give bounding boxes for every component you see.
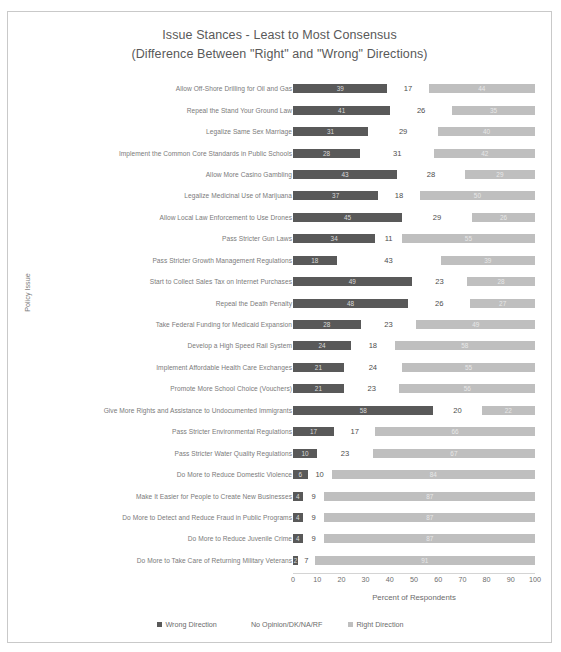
plot-area: Allow Off-Shore Drilling for Oil and Gas…: [8, 78, 553, 573]
bar-segment-wrong: 37: [293, 191, 378, 200]
bar-segment-no-opinion: 7: [298, 556, 315, 565]
stacked-bar: 412635: [293, 99, 535, 120]
legend-label: No Opinion/DK/NA/RF: [251, 620, 323, 629]
stacked-bar: 312940: [293, 121, 535, 142]
bar-segment-wrong: 21: [293, 363, 344, 372]
bar-segment-no-opinion: 29: [402, 213, 472, 222]
bar-segment-right: 50: [420, 191, 535, 200]
bar-segment-right: 22: [482, 406, 535, 415]
category-label: Allow More Casino Gambling: [206, 164, 292, 185]
chart-row: Implement Affordable Health Care Exchang…: [8, 357, 553, 378]
x-axis-tick-label: 80: [483, 575, 491, 584]
chart-row: Do More to Detect and Reduce Fraud in Pu…: [8, 507, 553, 528]
bar-segment-wrong: 24: [293, 341, 351, 350]
bar-segment-no-opinion: 18: [378, 191, 419, 200]
category-label: Do More to Take Care of Returning Milita…: [137, 550, 292, 571]
stacked-bar: 452926: [293, 207, 535, 228]
bar-segment-right: 49: [416, 320, 535, 329]
stacked-bar: 282349: [293, 314, 535, 335]
bar-segment-wrong: 4: [293, 513, 303, 522]
legend-item[interactable]: Wrong Direction: [157, 620, 216, 629]
category-label: Pass Stricter Water Quality Regulations: [174, 442, 292, 463]
legend-swatch-right: [348, 622, 353, 627]
bar-segment-wrong: 39: [293, 84, 387, 93]
chart-row: Allow Local Law Enforcement to Use Drone…: [8, 207, 553, 228]
bar-segment-right: 84: [332, 470, 535, 479]
bar-segment-wrong: 28: [293, 320, 361, 329]
category-label: Pass Stricter Environmental Regulations: [172, 421, 292, 442]
bar-segment-right: 91: [315, 556, 535, 565]
bar-segment-right: 42: [434, 149, 535, 158]
x-axis-line: [293, 573, 535, 574]
bar-segment-right: 58: [395, 341, 535, 350]
chart-row: Legalize Medicinal Use of Marijuana37185…: [8, 185, 553, 206]
chart-title-line1: Issue Stances - Least to Most Consensus: [162, 28, 397, 42]
chart-row: Pass Stricter Water Quality Regulations1…: [8, 442, 553, 463]
legend-swatch-wrong: [157, 622, 162, 627]
chart-title-line2: (Difference Between "Right" and "Wrong" …: [8, 45, 551, 64]
bar-segment-wrong: 48: [293, 299, 408, 308]
x-axis-tick-label: 40: [386, 575, 394, 584]
x-axis-tick-label: 30: [362, 575, 370, 584]
x-axis-tick-label: 20: [337, 575, 345, 584]
stacked-bar: 371850: [293, 185, 535, 206]
category-label: Repeal the Death Penalty: [216, 292, 292, 313]
bar-segment-no-opinion: 23: [317, 449, 373, 458]
bar-segment-no-opinion: 9: [303, 492, 325, 501]
legend-item[interactable]: Right Direction: [348, 620, 403, 629]
bar-segment-no-opinion: 31: [360, 149, 434, 158]
stacked-bar: 184339: [293, 250, 535, 271]
bar-segment-right: 39: [441, 256, 535, 265]
bar-segment-wrong: 43: [293, 170, 397, 179]
x-axis-tick-label: 100: [529, 575, 541, 584]
stacked-bar: 391744: [293, 78, 535, 99]
bar-segment-wrong: 49: [293, 277, 412, 286]
bar-segment-right: 87: [324, 513, 535, 522]
category-label: Do More to Detect and Reduce Fraud in Pu…: [122, 507, 292, 528]
stacked-bar: 212455: [293, 357, 535, 378]
x-axis-tick-label: 70: [458, 575, 466, 584]
category-label: Repeal the Stand Your Ground Law: [187, 99, 292, 120]
bar-segment-right: 66: [375, 427, 535, 436]
category-label: Pass Stricter Gun Laws: [222, 228, 292, 249]
chart-row: Legalize Same Sex Marriage312940: [8, 121, 553, 142]
chart-row: Give More Rights and Assistance to Undoc…: [8, 400, 553, 421]
bar-segment-wrong: 28: [293, 149, 360, 158]
bar-segment-wrong: 45: [293, 213, 402, 222]
category-label: Do More to Reduce Domestic Violence: [177, 464, 292, 485]
category-label: Develop a High Speed Rail System: [187, 335, 292, 356]
bar-segment-wrong: 21: [293, 384, 344, 393]
stacked-bar: 241858: [293, 335, 535, 356]
legend-label: Right Direction: [356, 620, 403, 629]
chart-row: Repeal the Stand Your Ground Law412635: [8, 99, 553, 120]
chart-row: Do More to Take Care of Returning Milita…: [8, 550, 553, 571]
stacked-bar: 2791: [293, 550, 535, 571]
bar-segment-no-opinion: 20: [433, 406, 481, 415]
stacked-bar: 4987: [293, 528, 535, 549]
stacked-bar: 102367: [293, 442, 535, 463]
bar-segment-no-opinion: 23: [412, 277, 468, 286]
bar-segment-right: 29: [465, 170, 535, 179]
x-axis-tick-label: 90: [507, 575, 515, 584]
bar-segment-no-opinion: 17: [334, 427, 375, 436]
stacked-bar: 4987: [293, 485, 535, 506]
bar-segment-wrong: 58: [293, 406, 433, 415]
bar-segment-no-opinion: 26: [408, 299, 470, 308]
category-label: Implement Affordable Health Care Exchang…: [156, 357, 292, 378]
bar-segment-no-opinion: 18: [351, 341, 395, 350]
chart-row: Pass Stricter Gun Laws341155: [8, 228, 553, 249]
legend-item[interactable]: No Opinion/DK/NA/RF: [243, 620, 323, 629]
bar-segment-right: 55: [402, 234, 535, 243]
x-axis-tick-label: 10: [313, 575, 321, 584]
bar-segment-right: 44: [429, 84, 535, 93]
bar-segment-no-opinion: 24: [344, 363, 402, 372]
chart-row: Make It Easier for People to Create New …: [8, 485, 553, 506]
bar-segment-no-opinion: 9: [303, 534, 325, 543]
chart-row: Allow More Casino Gambling432829: [8, 164, 553, 185]
bar-segment-right: 26: [472, 213, 535, 222]
stacked-bar: 582022: [293, 400, 535, 421]
x-axis-tick-label: 0: [291, 575, 295, 584]
bar-segment-wrong: 18: [293, 256, 337, 265]
stacked-bar: 341155: [293, 228, 535, 249]
category-label: Give More Rights and Assistance to Undoc…: [104, 400, 292, 421]
